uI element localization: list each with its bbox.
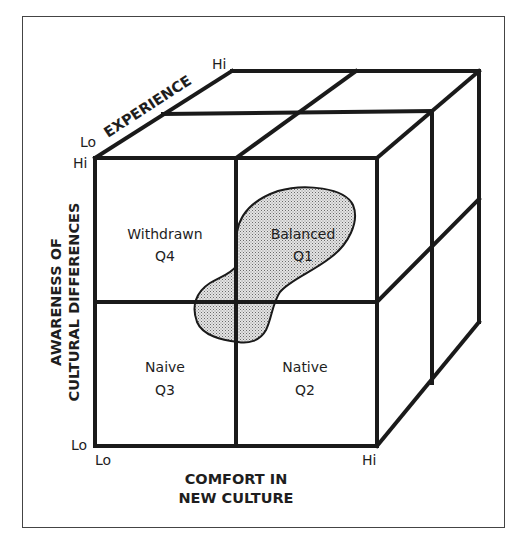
awareness-axis-label-line2: CULTURAL DIFFERENCES [66,203,82,402]
quadrant-q3-name: Naive [145,359,185,375]
awareness-hi-label: Hi [73,155,87,171]
comfort-lo-label: Lo [95,452,111,468]
cube-diagram: EXPERIENCE Hi Lo Hi Lo AWARENESS OF CULT… [0,0,529,546]
side-bottom-edge [377,322,479,446]
comfort-hi-label: Hi [362,452,376,468]
quadrant-q1-code: Q1 [293,248,313,264]
experience-axis-label: EXPERIENCE [101,72,194,140]
awareness-lo-label: Lo [71,437,87,453]
top-right-edge [377,71,479,158]
quadrant-q3-code: Q3 [155,382,175,398]
experience-lo-label: Lo [80,134,96,150]
experience-hi-label: Hi [212,56,226,72]
quadrant-q2-code: Q2 [295,382,315,398]
comfort-axis-label-line2: NEW CULTURE [178,490,293,506]
quadrant-q4-name: Withdrawn [127,226,202,242]
comfort-axis-label-line1: COMFORT IN [185,471,288,487]
quadrant-q1-name: Balanced [271,226,336,242]
quadrant-q4-code: Q4 [155,248,175,264]
side-mid-horizontal [377,199,479,302]
quadrant-q2-name: Native [282,359,327,375]
awareness-axis-label-line1: AWARENESS OF [48,238,64,366]
balanced-region [195,187,356,342]
